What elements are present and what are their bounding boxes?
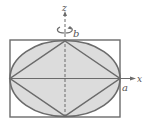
z-axis-label: z <box>61 3 67 13</box>
b-label: b <box>73 28 79 39</box>
x-axis-label: x <box>137 74 142 84</box>
a-label: a <box>122 82 128 93</box>
ellipse-rotation-diagram: z b x a <box>0 0 149 124</box>
x-axis-arrowhead <box>130 77 136 81</box>
